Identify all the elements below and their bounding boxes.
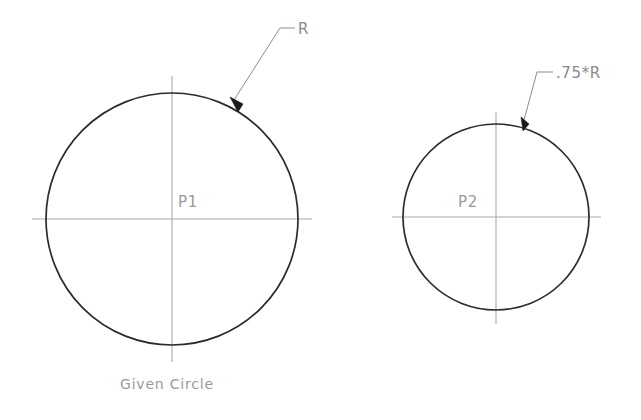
right-leader-line	[524, 72, 553, 120]
figure-caption-given-circle: Given Circle	[120, 376, 214, 392]
drawing-canvas: R P1 Given Circle .75*R P2	[0, 0, 641, 420]
point-label-p2: P2	[458, 193, 478, 211]
technical-drawing-svg: R P1 Given Circle .75*R P2	[0, 0, 641, 420]
radius-label-scaled: .75*R	[556, 64, 601, 82]
left-figure-group: R P1 Given Circle	[32, 20, 312, 392]
point-label-p1: P1	[178, 193, 198, 211]
radius-label-r: R	[298, 20, 309, 38]
right-figure-group: .75*R P2	[392, 64, 601, 324]
left-leader-arrowhead	[230, 97, 243, 112]
left-leader-line	[234, 28, 295, 100]
